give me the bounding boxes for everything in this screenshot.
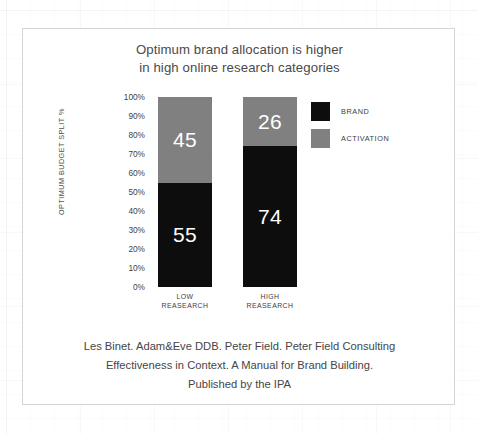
legend-label-brand: BRAND	[341, 107, 369, 116]
legend-item-brand[interactable]: BRAND	[311, 102, 441, 129]
bar-segment-activation-high[interactable]: 26	[243, 97, 297, 146]
legend-swatch-activation-icon	[311, 129, 330, 148]
bar-segment-activation-low[interactable]: 45	[158, 97, 212, 183]
source-annotation: Les Binet. Adam&Eve DDB. Peter Field. Pe…	[23, 337, 456, 394]
legend-item-activation[interactable]: ACTIVATION	[311, 129, 441, 156]
category-label-high-line-2: REASEARCH	[220, 302, 320, 311]
legend-label-activation: ACTIVATION	[341, 134, 389, 143]
source-line-3: Published by the IPA	[23, 375, 456, 394]
legend-swatch-brand-icon	[311, 102, 330, 121]
chart-slide-frame: Optimum brand allocation is higher in hi…	[22, 28, 455, 405]
bar-segment-brand-high[interactable]: 74	[243, 146, 297, 287]
category-label-high-reasearch: HIGH REASEARCH	[220, 293, 320, 310]
chart-legend: BRAND ACTIVATION	[311, 102, 441, 156]
bar-segment-brand-low[interactable]: 55	[158, 183, 212, 288]
bar-value-activation-high: 26	[258, 111, 282, 132]
bar-value-brand-low: 55	[173, 224, 197, 245]
source-line-1: Les Binet. Adam&Eve DDB. Peter Field. Pe…	[23, 337, 456, 356]
source-line-2: Effectiveness in Context. A Manual for B…	[23, 356, 456, 375]
stacked-bar-low-reasearch[interactable]: 45 55	[158, 97, 212, 287]
bar-value-brand-high: 74	[258, 206, 282, 227]
category-label-high-line-1: HIGH	[220, 293, 320, 302]
stacked-bar-high-reasearch[interactable]: 26 74	[243, 97, 297, 287]
bar-value-activation-low: 45	[173, 129, 197, 150]
